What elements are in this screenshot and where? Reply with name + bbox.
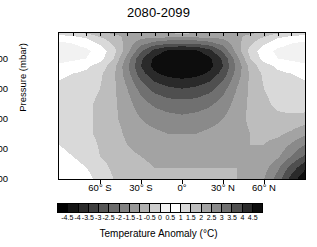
colorbar-tick-labels: -4.5-4-3.5-3-2.5-2-1.5-1-0.500.511.522.5… xyxy=(30,214,290,225)
y-tick-label: 1000 xyxy=(0,174,8,184)
x-top-tick-mark xyxy=(155,32,156,36)
colorbar-cell xyxy=(232,204,242,212)
chart-title: 2080-2099 xyxy=(0,5,317,20)
colorbar-cell xyxy=(109,204,119,212)
x-top-tick-mark xyxy=(73,32,74,36)
colorbar-cell xyxy=(212,204,222,212)
colorbar-cell xyxy=(150,204,160,212)
y-tick-label: 600 xyxy=(0,114,8,124)
x-tick-mark xyxy=(141,180,142,184)
x-top-tick-mark xyxy=(237,32,238,36)
x-tick-label: 60° S xyxy=(77,183,123,193)
plot-area xyxy=(58,32,306,180)
colorbar-cell xyxy=(202,204,212,212)
x-top-tick-mark xyxy=(278,32,279,36)
y-axis-label: Pressure (mbar) xyxy=(17,18,28,138)
colorbar-cell xyxy=(171,204,181,212)
x-tick-mark xyxy=(264,180,265,184)
x-top-tick-mark xyxy=(182,32,183,36)
colorbar-cell xyxy=(181,204,191,212)
colorbar-cell xyxy=(191,204,201,212)
colorbar-cell xyxy=(89,204,99,212)
colorbar-cell xyxy=(79,204,89,212)
colorbar-cell xyxy=(243,204,253,212)
colorbar-cell xyxy=(99,204,109,212)
y-tick-label: 400 xyxy=(0,84,8,94)
colorbar-cell xyxy=(68,204,78,212)
colorbar-cell xyxy=(161,204,171,212)
colorbar-cell xyxy=(140,204,150,212)
colorbar-cell xyxy=(120,204,130,212)
x-top-tick-mark xyxy=(250,32,251,36)
climate-anomaly-figure: 2080-2099 Pressure (mbar) 20040060080010… xyxy=(0,0,317,247)
x-tick-mark xyxy=(182,180,183,184)
temperature-anomaly-heatmap xyxy=(59,33,305,179)
colorbar-axis-label: Temperature Anomaly (°C) xyxy=(0,228,317,239)
x-top-tick-mark xyxy=(86,32,87,36)
x-tick-mark xyxy=(223,180,224,184)
x-tick-label: 60° N xyxy=(241,183,287,193)
x-tick-label: 0° xyxy=(159,183,205,193)
colorbar-cell xyxy=(253,204,262,212)
x-top-tick-mark xyxy=(209,32,210,36)
x-top-tick-mark xyxy=(196,32,197,36)
y-tick-label: 200 xyxy=(0,54,8,64)
x-top-tick-mark xyxy=(127,32,128,36)
colorbar-swatches xyxy=(57,203,263,213)
x-top-tick-mark xyxy=(100,32,101,36)
x-tick-mark xyxy=(100,180,101,184)
colorbar xyxy=(57,203,263,213)
y-tick-label: 800 xyxy=(0,144,8,154)
colorbar-cell xyxy=(222,204,232,212)
colorbar-cell xyxy=(58,204,68,212)
x-top-tick-mark xyxy=(141,32,142,36)
x-tick-label: 30° N xyxy=(200,183,246,193)
x-top-tick-mark xyxy=(291,32,292,36)
x-top-tick-mark xyxy=(264,32,265,36)
x-top-tick-mark xyxy=(223,32,224,36)
x-top-tick-mark xyxy=(114,32,115,36)
x-tick-label: 30° S xyxy=(118,183,164,193)
colorbar-cell xyxy=(130,204,140,212)
x-top-tick-mark xyxy=(168,32,169,36)
colorbar-tick-label: 4.5 xyxy=(240,214,266,221)
